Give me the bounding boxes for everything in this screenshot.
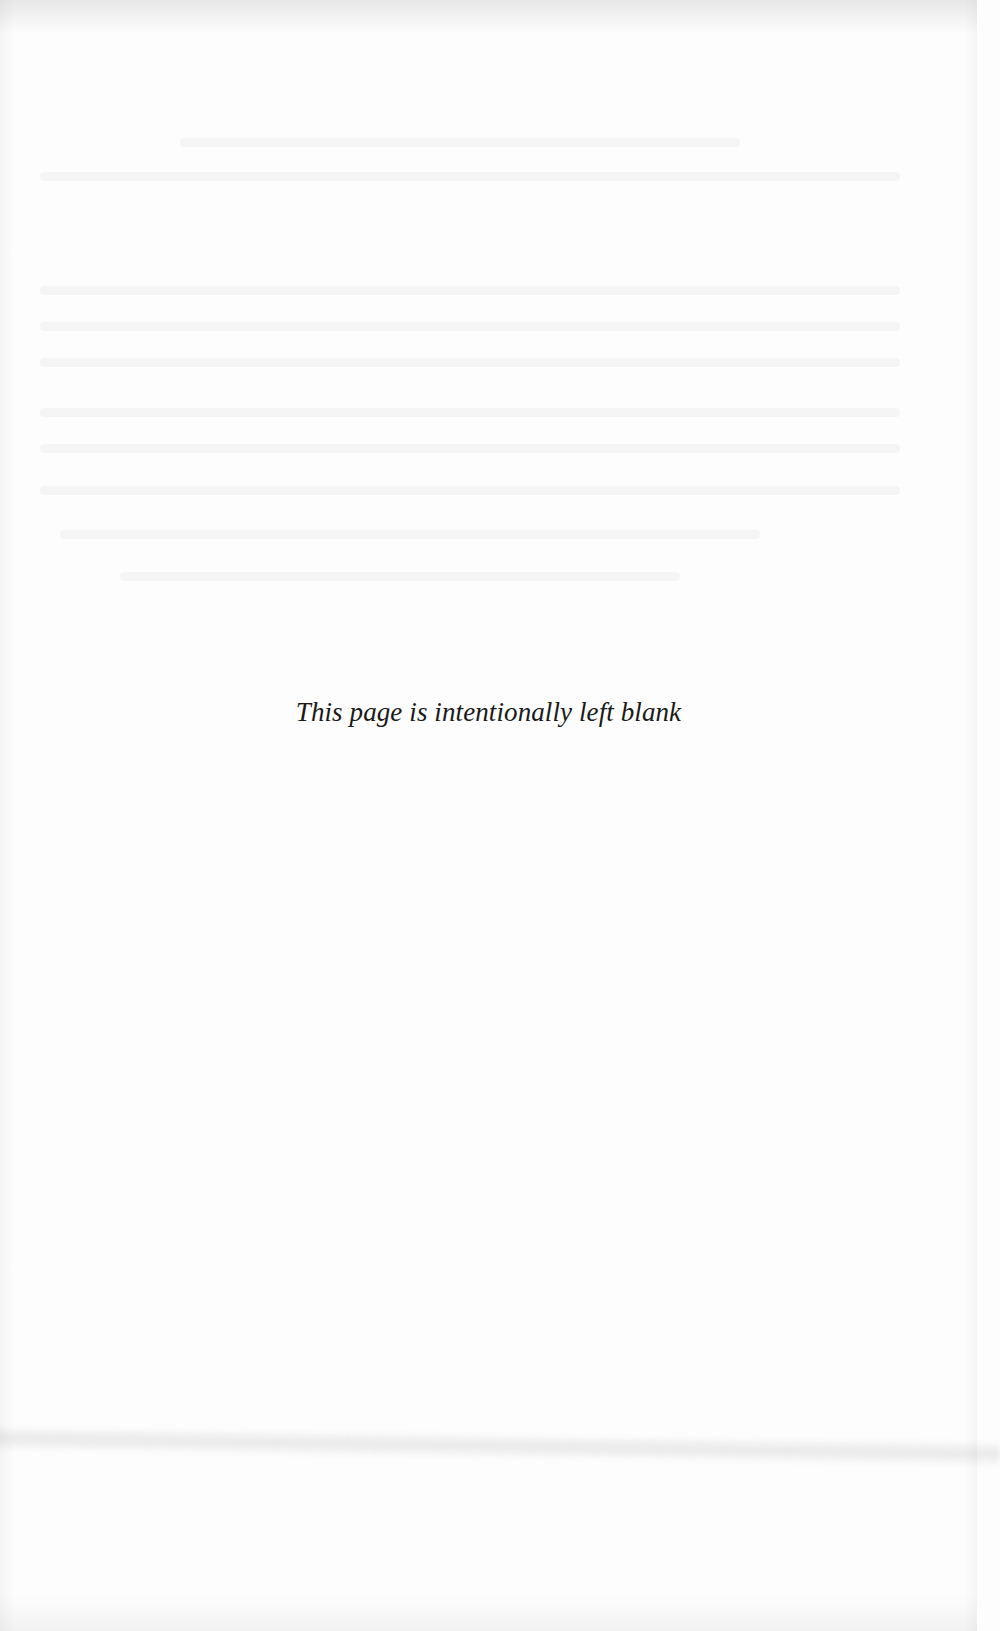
bleed-through-line: [40, 172, 900, 181]
bleed-through-line: [40, 486, 900, 495]
bleed-through-line: [60, 530, 760, 539]
bleed-through-line: [40, 286, 900, 295]
page-bottom-edge-shadow: [0, 1595, 977, 1631]
bleed-through-line: [40, 444, 900, 453]
scan-smear: [0, 1425, 1000, 1467]
bleed-through-line: [40, 408, 900, 417]
bleed-through-line: [180, 138, 740, 147]
bleed-through-line: [40, 322, 900, 331]
blank-page-notice: This page is intentionally left blank: [0, 697, 977, 728]
bleed-through-line: [40, 358, 900, 367]
page-top-edge-shadow: [0, 0, 977, 34]
bleed-through-line: [120, 572, 680, 581]
